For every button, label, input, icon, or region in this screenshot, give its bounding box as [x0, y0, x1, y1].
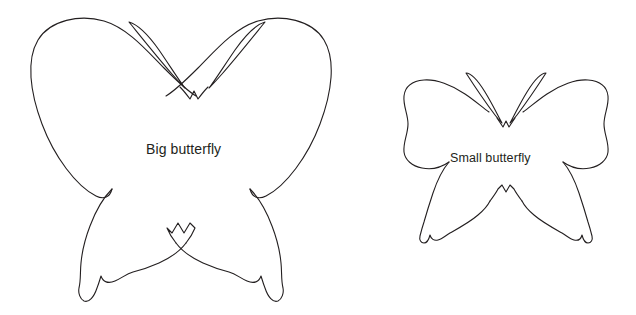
- small-butterfly-label: Small butterfly: [450, 151, 531, 165]
- big-butterfly-label: Big butterfly: [146, 141, 221, 157]
- butterfly-template-canvas: [0, 0, 636, 315]
- page-background: [0, 0, 636, 315]
